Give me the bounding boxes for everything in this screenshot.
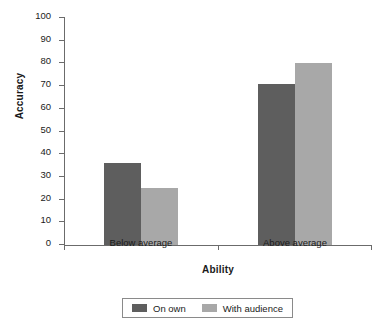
legend-swatch-on-own [132,304,147,312]
y-axis-tick-label: 70 [21,78,51,89]
y-axis-tick-label: 40 [21,146,51,157]
x-axis-category-label: Above average [235,237,355,248]
legend-label-on-own: On own [153,303,186,314]
legend-item-with-audience: With audience [202,303,283,314]
bar [258,84,295,245]
plot-area: 0102030405060708090100 [64,18,372,245]
y-axis-tick-label: 20 [21,192,51,203]
x-axis-tick [64,245,65,250]
bars-layer [64,18,372,245]
y-axis-tick-label: 80 [21,55,51,66]
y-axis-tick-label: 90 [21,33,51,44]
legend-item-on-own: On own [132,303,186,314]
y-axis-tick-label: 30 [21,169,51,180]
bar [104,163,141,245]
y-axis-tick-label: 50 [21,124,51,135]
x-axis-category-label: Below average [81,237,201,248]
legend-label-with-audience: With audience [223,303,283,314]
y-axis-tick-label: 10 [21,214,51,225]
x-axis-title: Ability [64,264,372,275]
bar [295,63,332,245]
x-axis-tick [371,245,372,250]
y-axis-tick-label: 0 [21,237,51,248]
y-axis-tick-label: 100 [21,10,51,21]
x-axis-tick [218,245,219,250]
y-axis-tick-label: 60 [21,101,51,112]
legend: On own With audience [122,298,293,318]
legend-swatch-with-audience [202,304,217,312]
bar-chart: Accuracy 0102030405060708090100 Below av… [0,0,387,329]
